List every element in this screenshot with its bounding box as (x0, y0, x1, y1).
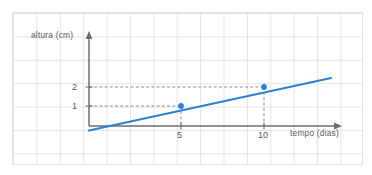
y-tick-label-1: 1 (72, 101, 77, 111)
guide-lines (89, 87, 264, 126)
y-axis-arrow-icon (86, 31, 93, 39)
data-point-5-1 (178, 103, 184, 109)
tick-marks (86, 87, 265, 130)
chart-figure: altura (cm) tempo (dias) 2 1 5 10 (0, 0, 372, 175)
x-tick-label-10: 10 (258, 130, 268, 140)
axes (86, 31, 342, 129)
y-tick-label-2: 2 (72, 82, 77, 92)
data-points (178, 84, 267, 109)
x-tick-label-5: 5 (177, 130, 182, 140)
plot-area (0, 0, 372, 175)
data-point-10-2 (261, 84, 267, 90)
x-axis-label: tempo (dias) (290, 128, 339, 138)
y-axis-label: altura (cm) (31, 30, 73, 40)
data-line-series-0 (89, 78, 331, 131)
